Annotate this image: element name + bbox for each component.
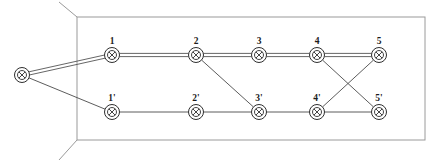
edge-S-n1 xyxy=(29,55,105,75)
node-p5[interactable] xyxy=(372,105,387,120)
edge-n3-n4 xyxy=(267,53,310,56)
node-label-p2: 2' xyxy=(192,93,199,103)
node-S[interactable] xyxy=(15,68,30,83)
node-label-n3: 3 xyxy=(257,36,262,46)
edges-group xyxy=(29,53,374,112)
edge-n1-n2 xyxy=(120,53,189,56)
node-p4[interactable] xyxy=(310,105,325,120)
network-diagram: 123451'2'3'4'5' xyxy=(0,0,436,165)
node-label-n2: 2 xyxy=(194,36,199,46)
top-left-tick xyxy=(59,2,77,17)
node-label-n1: 1 xyxy=(110,36,115,46)
node-label-p4: 4' xyxy=(313,93,320,103)
node-label-p5: 5' xyxy=(375,93,382,103)
node-label-p3: 3' xyxy=(255,93,262,103)
node-n3[interactable] xyxy=(252,48,267,63)
boundary-rectangle xyxy=(77,17,425,140)
nodes-group xyxy=(15,48,387,120)
bottom-left-tick xyxy=(59,140,77,160)
edge-n2-p3 xyxy=(202,60,254,107)
node-p3[interactable] xyxy=(252,105,267,120)
labels-group: 123451'2'3'4'5' xyxy=(108,36,382,103)
node-n2[interactable] xyxy=(189,48,204,63)
node-label-p1: 1' xyxy=(108,93,115,103)
node-n4[interactable] xyxy=(310,48,325,63)
node-n1[interactable] xyxy=(105,48,120,63)
edge-n2-n3 xyxy=(204,53,252,56)
node-p1[interactable] xyxy=(105,105,120,120)
frame-group xyxy=(59,2,425,160)
node-n5[interactable] xyxy=(372,48,387,63)
node-label-n4: 4 xyxy=(315,36,320,46)
diagram-canvas: 123451'2'3'4'5' xyxy=(0,0,436,165)
edge-S-p1 xyxy=(29,78,105,109)
node-p2[interactable] xyxy=(189,105,204,120)
node-label-n5: 5 xyxy=(377,36,382,46)
edge-n4-n5 xyxy=(325,53,372,56)
